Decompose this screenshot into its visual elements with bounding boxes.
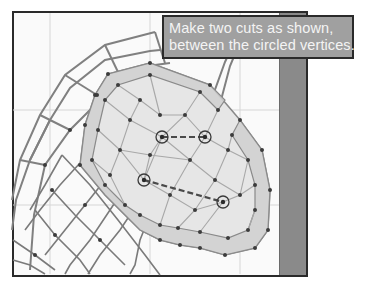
callout-line-2: between the circled vertices. [169,37,352,54]
callout-line-1: Make two cuts as shown, [169,20,352,37]
instruction-callout: Make two cuts as shown, between the circ… [162,15,354,59]
